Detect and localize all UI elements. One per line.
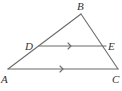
label-c: C — [112, 74, 119, 85]
segment-ab — [8, 14, 81, 69]
label-e: E — [108, 41, 115, 52]
label-d: D — [25, 41, 33, 52]
label-a: A — [1, 74, 8, 85]
label-b: B — [77, 1, 84, 12]
triangle-diagram — [0, 0, 122, 91]
